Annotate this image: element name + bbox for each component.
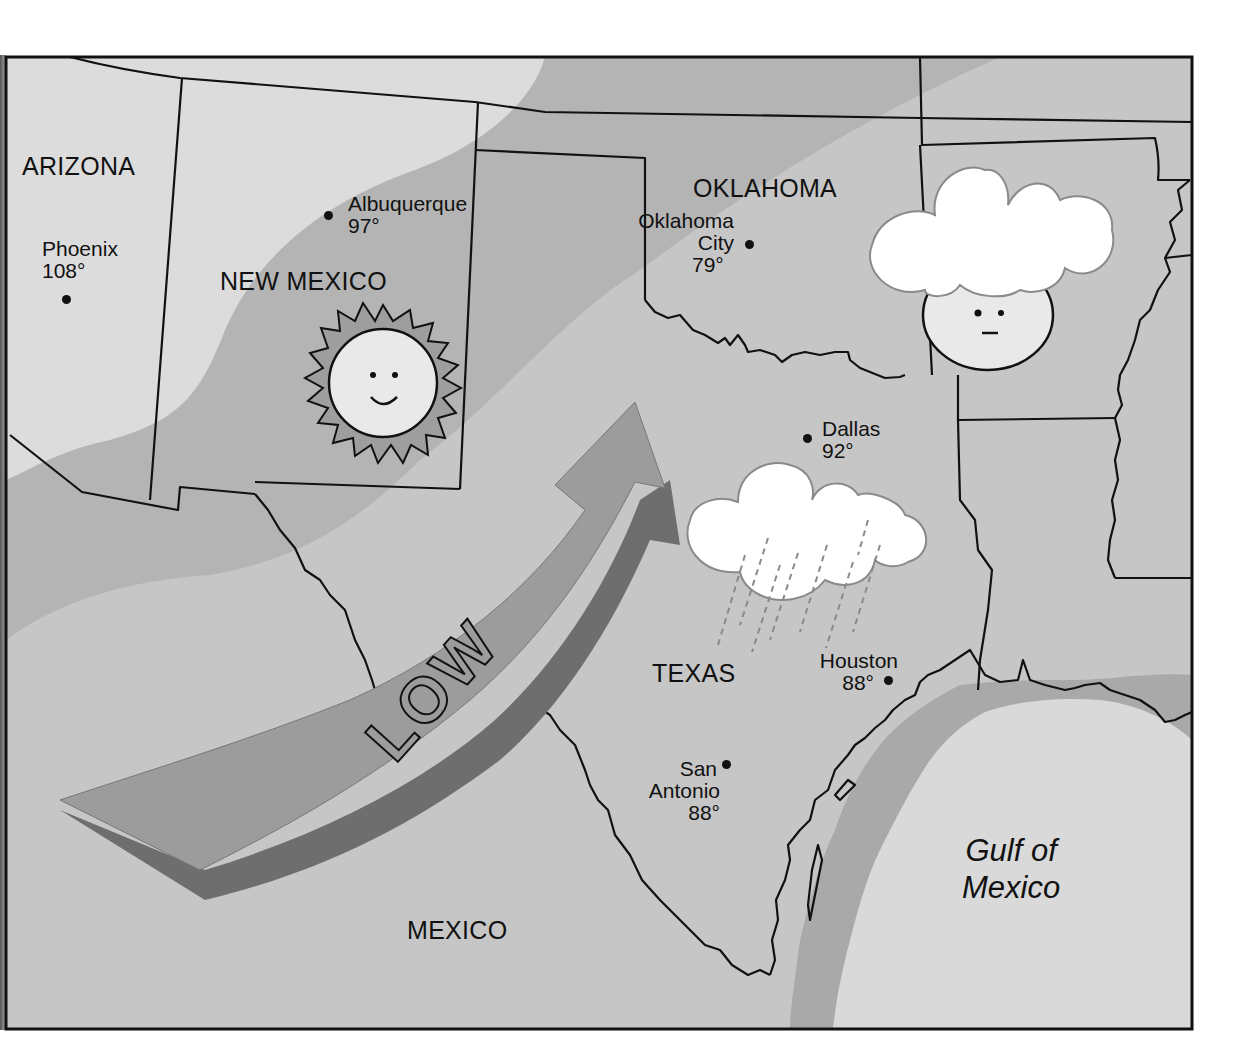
city-marker-dallas — [803, 434, 812, 443]
city-temp: 108° — [42, 260, 118, 282]
region-label-new-mexico: NEW MEXICO — [220, 268, 387, 294]
city-marker-albuquerque — [324, 211, 333, 220]
city-name: Houston — [806, 650, 898, 672]
city-name-line1: San — [620, 758, 720, 780]
city-label-san-antonio: San Antonio 88° — [620, 758, 720, 824]
water-label-gulf-of-mexico: Gulf of Mexico — [962, 832, 1060, 906]
city-label-oklahoma-city: Oklahoma City 79° — [610, 210, 734, 276]
city-label-albuquerque: Albuquerque 97° — [348, 193, 467, 237]
gulf-label-line1: Gulf of — [962, 832, 1060, 869]
city-temp: 79° — [610, 254, 734, 276]
city-marker-san-antonio — [722, 760, 731, 769]
city-name-line2: City — [610, 232, 734, 254]
region-label-arizona: ARIZONA — [22, 153, 135, 179]
city-label-phoenix: Phoenix 108° — [42, 238, 118, 282]
region-label-oklahoma: OKLAHOMA — [693, 175, 837, 201]
region-label-mexico: MEXICO — [407, 917, 507, 943]
city-name: Albuquerque — [348, 193, 467, 215]
city-temp: 88° — [620, 802, 720, 824]
gulf-label-line2: Mexico — [962, 869, 1060, 906]
city-name: Dallas — [822, 418, 880, 440]
city-marker-oklahoma-city — [745, 240, 754, 249]
city-label-houston: Houston 88° — [806, 650, 898, 694]
city-name-line1: Oklahoma — [610, 210, 734, 232]
city-temp: 97° — [348, 215, 467, 237]
region-label-texas: TEXAS — [652, 660, 735, 686]
city-marker-houston — [884, 676, 893, 685]
city-name-line2: Antonio — [620, 780, 720, 802]
city-temp: 92° — [822, 440, 880, 462]
city-label-dallas: Dallas 92° — [822, 418, 880, 462]
city-name: Phoenix — [42, 238, 118, 260]
city-marker-phoenix — [62, 295, 71, 304]
